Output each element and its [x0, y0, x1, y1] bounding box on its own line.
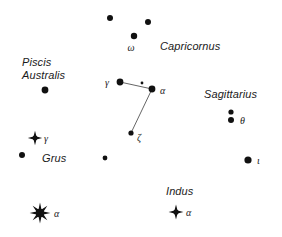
- star-gru-gamma: [28, 131, 42, 145]
- star-glyph-dot: [228, 117, 234, 123]
- constellation-label-indus: Indus: [166, 185, 193, 198]
- constellation-label-grus: Grus: [42, 152, 66, 165]
- star-glyph-dot: [42, 87, 49, 94]
- star-label-gru-gamma: γ: [44, 133, 48, 144]
- star-sgr-theta-2: [228, 117, 234, 123]
- star-label-sgr-theta-2: θ: [240, 115, 245, 126]
- star-glyph-dot: [145, 19, 151, 25]
- star-glyph-dot: [131, 33, 137, 39]
- star-core: [33, 136, 38, 141]
- star-label-mic-zeta: ζ: [137, 132, 141, 143]
- star-label-cap-omega: ω: [125, 42, 137, 53]
- star-cap-omega: [131, 33, 137, 39]
- star-field-dot: [103, 156, 108, 161]
- star-mic-faint: [141, 82, 144, 85]
- star-gru-alpha: [30, 203, 51, 224]
- star-cap-dot-2: [145, 19, 151, 25]
- constellation-line: [120, 82, 152, 89]
- star-gru-dot: [19, 152, 25, 158]
- star-sgr-iota: [244, 156, 251, 163]
- star-mic-gamma: [117, 79, 124, 86]
- star-label-gru-alpha: α: [54, 208, 59, 219]
- star-pisa-dot: [42, 87, 49, 94]
- star-label-mic-gamma: γ: [105, 77, 109, 88]
- star-label-ind-alpha: α: [186, 207, 191, 218]
- star-glyph-dot: [128, 130, 133, 135]
- star-core: [173, 209, 178, 214]
- constellation-label-sagittarius: Sagittarius: [204, 88, 257, 101]
- star-chart: ωγαζθιγααCapricornusPiscis AustralisSagi…: [0, 0, 282, 237]
- star-glyph-dot: [149, 86, 156, 93]
- star-glyph-dot: [19, 152, 25, 158]
- constellation-line: [131, 89, 152, 133]
- star-glyph-dot: [117, 79, 124, 86]
- star-glyph-dot: [228, 109, 233, 114]
- star-label-mic-alpha: α: [160, 85, 165, 96]
- star-mic-zeta: [128, 130, 133, 135]
- star-glyph-dot: [107, 15, 113, 21]
- star-cap-dot-1: [107, 15, 113, 21]
- star-glyph-dot: [244, 156, 251, 163]
- star-glyph-dot: [141, 82, 144, 85]
- star-mic-alpha: [149, 86, 156, 93]
- star-ind-alpha: [169, 205, 184, 220]
- star-label-sgr-iota: ι: [257, 155, 260, 166]
- constellation-label-piscis-australis: Piscis Australis: [22, 56, 65, 82]
- star-sgr-theta-1: [228, 109, 233, 114]
- star-core: [36, 209, 44, 217]
- constellation-label-capricornus: Capricornus: [160, 40, 220, 53]
- star-glyph-dot: [103, 156, 108, 161]
